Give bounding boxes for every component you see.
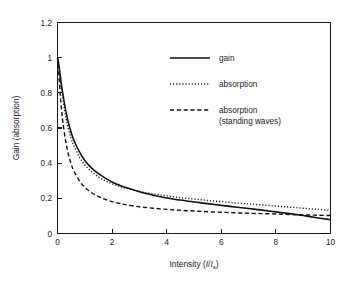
y-tick-label: 0	[47, 230, 52, 239]
y-axis-title: Gain (absorption)	[11, 95, 21, 160]
y-tick-label: 0.2	[41, 194, 53, 203]
x-tick-label: 0	[55, 238, 60, 247]
legend-label: absorption	[219, 80, 258, 89]
series-curve-dashed	[58, 58, 331, 216]
x-tick-label: 10	[326, 238, 336, 247]
y-tick-label: 0.4	[41, 159, 53, 168]
legend-label: absorption	[219, 106, 258, 115]
x-axis-title: Intensity (I/Is)	[169, 259, 218, 270]
x-tick-label: 2	[110, 238, 115, 247]
y-tick-label: 1.2	[41, 19, 53, 28]
series-curve-dotted	[58, 58, 331, 211]
legend-label: gain	[219, 54, 235, 63]
y-tick-label: 1	[47, 54, 52, 63]
x-tick-label: 4	[164, 238, 169, 247]
series-curve-solid	[58, 58, 331, 220]
y-tick-label: 0.6	[41, 124, 53, 133]
y-tick-label: 0.8	[41, 89, 53, 98]
x-tick-label: 8	[274, 238, 279, 247]
chart-canvas: 00.20.40.60.811.20246810 gainabsorptiona…	[0, 0, 350, 284]
data-series-layer	[58, 58, 331, 220]
legend: gainabsorptionabsorption(standing waves)	[170, 54, 281, 126]
legend-label-secondary: (standing waves)	[219, 117, 281, 126]
x-tick-label: 6	[219, 238, 224, 247]
figure-container: 00.20.40.60.811.20246810 gainabsorptiona…	[0, 0, 350, 284]
axis-ticks: 00.20.40.60.811.20246810	[41, 19, 336, 248]
